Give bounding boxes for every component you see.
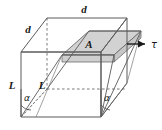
- shear-diagram-figure: d d A L L α α τ: [0, 0, 162, 130]
- label-area: A: [84, 38, 92, 50]
- label-angle-right: α: [104, 93, 110, 103]
- angle-arc-left: [21, 105, 31, 110]
- diagram-canvas: d d A L L α α τ: [0, 0, 162, 130]
- label-length-inner: L: [38, 79, 46, 91]
- shaded-area-front-band: [62, 55, 114, 62]
- label-depth-top: d: [81, 3, 87, 15]
- tau-arrow-head: [138, 41, 145, 48]
- label-angle-left: α: [24, 93, 30, 103]
- label-depth-front: d: [25, 23, 31, 35]
- label-shear-stress: τ: [151, 39, 158, 50]
- label-length-left: L: [8, 79, 16, 91]
